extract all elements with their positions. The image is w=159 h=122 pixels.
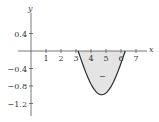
y-ticks: 0.4−0.4−0.8−1.2	[8, 30, 33, 109]
y-axis-label: y	[27, 4, 33, 13]
y-tick-label: −0.4	[8, 65, 27, 74]
x-axis-label: x	[149, 45, 154, 54]
x-tick-label: 2	[58, 54, 63, 63]
x-tick-label: 7	[133, 54, 138, 63]
x-tick-label: 6	[118, 54, 123, 63]
x-tick-label: 1	[43, 54, 48, 63]
y-tick-label: −1.2	[8, 100, 27, 109]
y-tick-label: −0.8	[8, 82, 27, 91]
chart: 1234567 0.4−0.4−0.8−1.2 x y −	[0, 0, 159, 122]
y-tick-label: 0.4	[14, 30, 27, 39]
x-tick-label: 3	[73, 54, 78, 63]
region-sign-label: −	[99, 72, 106, 81]
x-tick-label: 5	[103, 54, 108, 63]
x-tick-label: 4	[88, 54, 93, 63]
